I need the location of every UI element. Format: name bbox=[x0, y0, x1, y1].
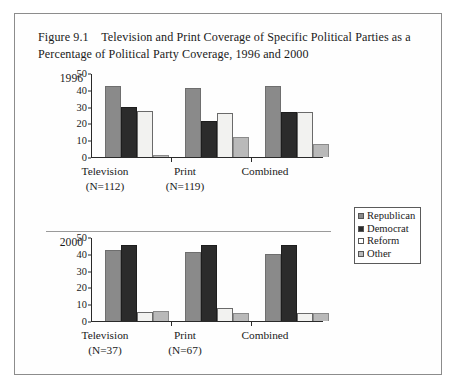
y-tick-mark-50 bbox=[88, 74, 91, 75]
category-name: Print bbox=[174, 165, 196, 177]
x-tick-mark-1 bbox=[171, 158, 172, 162]
y-tick-label-10: 10 bbox=[77, 136, 87, 146]
y-tick-label-30: 30 bbox=[77, 103, 87, 113]
bar-republican-combined bbox=[265, 254, 281, 321]
chart-panel-1996: 1996 0 10 20 30 40 50 bbox=[15, 72, 443, 222]
y-tick-label-10: 10 bbox=[77, 300, 87, 310]
y-tick-mark-30 bbox=[88, 107, 91, 108]
legend-item-other: Other bbox=[358, 248, 415, 261]
category-n: (N=37) bbox=[60, 343, 150, 358]
category-label-print-1996: Print (N=119) bbox=[140, 164, 230, 193]
legend-swatch-republican-icon bbox=[358, 213, 364, 219]
bar-reform-print bbox=[217, 113, 233, 157]
bar-other-combined bbox=[313, 313, 329, 321]
y-tick-mark-10 bbox=[88, 305, 91, 306]
category-name: Television bbox=[82, 329, 129, 341]
legend-swatch-other-icon bbox=[358, 251, 364, 257]
bars-combined bbox=[265, 73, 329, 157]
bar-democrat-combined bbox=[281, 245, 297, 321]
category-n: (N=119) bbox=[140, 179, 230, 194]
legend-item-democrat: Democrat bbox=[358, 223, 415, 236]
y-tick-label-50: 50 bbox=[77, 233, 87, 243]
legend-label-democrat: Democrat bbox=[367, 223, 409, 236]
bar-republican-print bbox=[185, 88, 201, 157]
bar-other-print bbox=[233, 137, 249, 157]
bar-reform-combined bbox=[297, 313, 313, 321]
chart-legend: Republican Democrat Reform Other bbox=[354, 207, 421, 264]
bar-reform-television bbox=[137, 312, 153, 321]
x-tick-mark-1 bbox=[171, 322, 172, 326]
bars-print bbox=[185, 237, 249, 321]
y-tick-mark-0 bbox=[88, 322, 91, 323]
category-name: Print bbox=[174, 329, 196, 341]
bar-other-print bbox=[233, 313, 249, 321]
bar-reform-print bbox=[217, 308, 233, 321]
category-label-combined-1996: Combined bbox=[220, 164, 310, 179]
legend-label-republican: Republican bbox=[367, 210, 415, 223]
y-tick-mark-40 bbox=[88, 254, 91, 255]
category-label-television-1996: Television (N=112) bbox=[60, 164, 150, 193]
y-tick-label-50: 50 bbox=[77, 69, 87, 79]
category-name: Combined bbox=[241, 329, 288, 341]
category-n: (N=112) bbox=[60, 179, 150, 194]
panel-divider bbox=[46, 231, 331, 232]
legend-swatch-reform-icon bbox=[358, 238, 364, 244]
bar-republican-television bbox=[105, 86, 121, 157]
bar-republican-combined bbox=[265, 86, 281, 157]
bar-democrat-television bbox=[121, 245, 137, 321]
y-tick-label-40: 40 bbox=[77, 250, 87, 260]
category-name: Television bbox=[82, 165, 129, 177]
bar-other-television bbox=[153, 155, 169, 157]
y-tick-mark-20 bbox=[88, 288, 91, 289]
y-tick-label-20: 20 bbox=[77, 119, 87, 129]
figure-caption: Figure 9.1 Television and Print Coverage… bbox=[38, 29, 413, 62]
y-tick-label-40: 40 bbox=[77, 86, 87, 96]
legend-label-reform: Reform bbox=[367, 235, 399, 248]
bar-reform-combined bbox=[297, 112, 313, 157]
bar-democrat-print bbox=[201, 121, 217, 157]
legend-item-reform: Reform bbox=[358, 235, 415, 248]
plot-area-2000: 0 10 20 30 40 50 bbox=[91, 238, 323, 322]
bars-print bbox=[185, 73, 249, 157]
y-tick-mark-40 bbox=[88, 90, 91, 91]
bar-other-television bbox=[153, 311, 169, 321]
legend-swatch-democrat-icon bbox=[358, 226, 364, 232]
legend-label-other: Other bbox=[367, 248, 391, 261]
y-tick-label-0: 0 bbox=[82, 153, 87, 163]
bar-democrat-combined bbox=[281, 112, 297, 157]
y-tick-mark-10 bbox=[88, 141, 91, 142]
y-tick-label-30: 30 bbox=[77, 267, 87, 277]
y-tick-mark-20 bbox=[88, 124, 91, 125]
y-tick-label-20: 20 bbox=[77, 283, 87, 293]
bar-other-combined bbox=[313, 144, 329, 157]
bar-democrat-television bbox=[121, 107, 137, 157]
y-axis-line bbox=[91, 238, 92, 322]
x-axis-line bbox=[91, 157, 323, 158]
x-tick-mark-2 bbox=[251, 158, 252, 162]
x-axis-line bbox=[91, 321, 323, 322]
bar-democrat-print bbox=[201, 245, 217, 321]
legend-item-republican: Republican bbox=[358, 210, 415, 223]
figure-caption-line-1: Television and Print Coverage of Specifi… bbox=[101, 30, 352, 44]
y-tick-mark-30 bbox=[88, 271, 91, 272]
category-label-print-2000: Print (N=67) bbox=[140, 328, 230, 357]
y-tick-mark-0 bbox=[88, 158, 91, 159]
category-label-television-2000: Television (N=37) bbox=[60, 328, 150, 357]
category-n: (N=67) bbox=[140, 343, 230, 358]
bars-television bbox=[105, 73, 169, 157]
category-name: Combined bbox=[241, 165, 288, 177]
figure-border: Figure 9.1 Television and Print Coverage… bbox=[14, 13, 442, 375]
figure-number: Figure 9.1 bbox=[38, 30, 89, 44]
y-tick-label-0: 0 bbox=[82, 317, 87, 327]
y-tick-mark-50 bbox=[88, 238, 91, 239]
bar-republican-television bbox=[105, 250, 121, 321]
y-axis-line bbox=[91, 74, 92, 158]
x-tick-mark-2 bbox=[251, 322, 252, 326]
category-label-combined-2000: Combined bbox=[220, 328, 310, 343]
bar-reform-television bbox=[137, 111, 153, 157]
bar-republican-print bbox=[185, 252, 201, 321]
bars-television bbox=[105, 237, 169, 321]
plot-area-1996: 0 10 20 30 40 50 bbox=[91, 74, 323, 158]
bars-combined bbox=[265, 237, 329, 321]
